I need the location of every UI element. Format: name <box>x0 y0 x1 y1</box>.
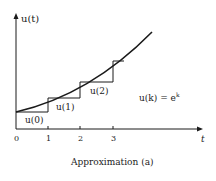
approximation-diagram: u(t) t 0 1 2 3 u(0) u(1) u(2) u(k) = ek … <box>0 0 216 181</box>
y-axis-arrow-icon <box>14 13 19 19</box>
formula: u(k) = ek <box>139 91 180 103</box>
caption: Approximation (a) <box>70 157 154 167</box>
exponential-curve <box>16 32 152 112</box>
y-axis-label: u(t) <box>21 13 39 24</box>
x-tick-label-3: 3 <box>111 134 116 143</box>
step-label-u1: u(1) <box>56 102 75 112</box>
x-axis-arrow-icon <box>197 127 203 132</box>
step-label-u0: u(0) <box>25 115 44 125</box>
x-axis-label: t <box>201 134 205 144</box>
formula-base: u(k) = e <box>139 93 176 103</box>
x-tick-label-1: 1 <box>46 134 51 143</box>
x-tick-label-2: 2 <box>78 134 83 143</box>
step-label-u2: u(2) <box>90 86 109 96</box>
formula-exponent: k <box>176 91 180 98</box>
x-tick-label-0: 0 <box>14 134 19 143</box>
